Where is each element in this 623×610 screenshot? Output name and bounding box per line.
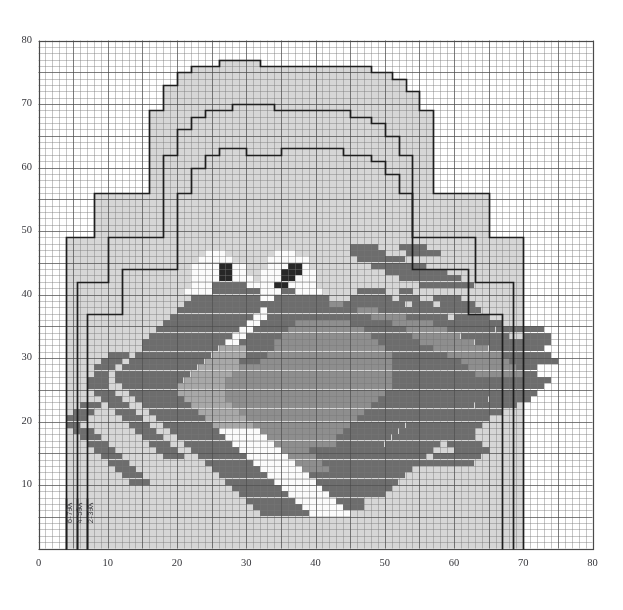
x-axis-tick-label: 70 (509, 557, 537, 568)
x-axis-tick-label: 30 (232, 557, 260, 568)
y-axis-tick-label: 20 (6, 415, 32, 426)
size-label-3: 2-3岁 (85, 503, 96, 523)
y-axis-tick-label: 40 (6, 288, 32, 299)
x-axis-tick-label: 50 (371, 557, 399, 568)
y-axis-tick-label: 10 (6, 478, 32, 489)
knitting-chart: 1020304050607080010203040506070806-7岁4-5… (0, 0, 623, 610)
y-axis-tick-label: 50 (6, 224, 32, 235)
x-axis-tick-label: 60 (440, 557, 468, 568)
y-axis-tick-label: 60 (6, 161, 32, 172)
x-axis-tick-label: 40 (302, 557, 330, 568)
x-axis-tick-label: 80 (579, 557, 607, 568)
size-label-2: 4-5岁 (74, 503, 85, 523)
y-axis-tick-label: 70 (6, 97, 32, 108)
size-label-1: 6-7岁 (64, 503, 75, 523)
x-axis-tick-label: 0 (25, 557, 53, 568)
x-axis-tick-label: 20 (163, 557, 191, 568)
x-axis-tick-label: 10 (94, 557, 122, 568)
y-axis-tick-label: 80 (6, 34, 32, 45)
y-axis-tick-label: 30 (6, 351, 32, 362)
